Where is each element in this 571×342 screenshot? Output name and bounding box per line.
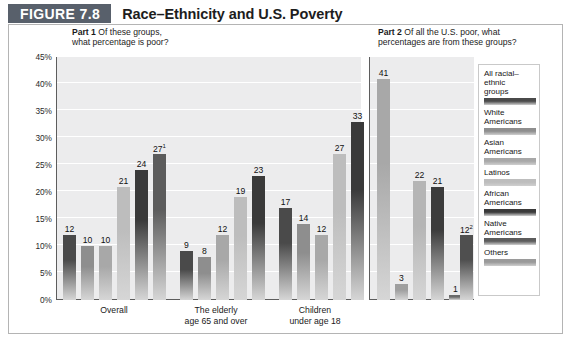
y-axis-tick-label: 45% bbox=[35, 52, 52, 62]
bar-value-label: 9 bbox=[184, 240, 189, 250]
bar bbox=[252, 176, 265, 300]
legend-item-label: Latinos bbox=[484, 168, 535, 177]
legend-item-label: White Americans bbox=[484, 108, 535, 126]
legend-color-swatch bbox=[484, 98, 536, 105]
gridline bbox=[57, 55, 361, 56]
bar-value-label: 23 bbox=[254, 165, 264, 175]
gridline bbox=[57, 109, 361, 110]
part2-heading-line2: percentages are from these groups? bbox=[378, 37, 517, 47]
bar bbox=[81, 246, 94, 300]
bar bbox=[135, 170, 148, 300]
bar bbox=[216, 235, 229, 300]
gridline bbox=[57, 82, 361, 83]
bar bbox=[315, 235, 328, 300]
part1-heading-line1: Of these groups, bbox=[98, 27, 162, 37]
bar bbox=[297, 224, 310, 300]
figure-title-bar: FIGURE 7.8 Race–Ethnicity and U.S. Pover… bbox=[8, 4, 563, 23]
bar-value-label: 8 bbox=[202, 246, 207, 256]
part2-heading-bold: Part 2 bbox=[378, 27, 402, 37]
bar bbox=[333, 154, 346, 300]
y-axis-tick-label: 40% bbox=[35, 79, 52, 89]
legend-color-swatch bbox=[484, 179, 536, 186]
legend-item-label: All racial– ethnic groups bbox=[484, 69, 535, 97]
bar-value-label: 21 bbox=[433, 176, 443, 186]
bar-value-label: 10 bbox=[83, 235, 93, 245]
bar-value-label: 24 bbox=[137, 159, 147, 169]
legend-item-label: African Americans bbox=[484, 189, 535, 207]
bar-value-label: 3 bbox=[399, 273, 404, 283]
legend-item: White Americans bbox=[484, 108, 535, 135]
bar-value-label: 12 bbox=[218, 224, 228, 234]
bar bbox=[413, 181, 426, 300]
legend-item: All racial– ethnic groups bbox=[484, 69, 535, 105]
legend-item: Latinos bbox=[484, 168, 535, 186]
bar-value-label: 27 bbox=[335, 143, 345, 153]
part1-heading: Part 1 Of these groups, what percentage … bbox=[72, 27, 169, 48]
x-axis-group-label: The elderlyage 65 and over bbox=[185, 305, 248, 326]
legend-color-swatch bbox=[484, 238, 536, 245]
y-axis-tick-label: 25% bbox=[35, 160, 52, 170]
legend-item-label: Native Americans bbox=[484, 219, 535, 237]
figure-container: FIGURE 7.8 Race–Ethnicity and U.S. Pover… bbox=[0, 0, 571, 342]
x-axis-group-label: Childrenunder age 18 bbox=[289, 305, 340, 326]
bar bbox=[460, 235, 473, 300]
legend-color-swatch bbox=[484, 128, 536, 135]
bar-value-label: 122 bbox=[460, 224, 473, 235]
legend-item-label: Others bbox=[484, 248, 535, 257]
bar bbox=[180, 251, 193, 300]
bar bbox=[377, 79, 390, 300]
gridline bbox=[57, 190, 361, 191]
gridline bbox=[370, 55, 474, 56]
legend-color-swatch bbox=[484, 259, 536, 266]
bar-value-label: 22 bbox=[415, 170, 425, 180]
bar-value-label: 1 bbox=[453, 284, 458, 294]
legend-item: Native Americans bbox=[484, 219, 535, 246]
bar bbox=[234, 197, 247, 300]
gridline bbox=[57, 136, 361, 137]
legend-color-swatch bbox=[484, 158, 536, 165]
bar bbox=[351, 122, 364, 300]
y-axis-tick-label: 5% bbox=[40, 268, 52, 278]
legend-item: Asian Americans bbox=[484, 138, 535, 165]
bar-value-label: 14 bbox=[299, 213, 309, 223]
bar-value-label: 12 bbox=[317, 224, 327, 234]
y-axis-tick-label: 35% bbox=[35, 106, 52, 116]
part2-heading: Part 2 Of all the U.S. poor, what percen… bbox=[378, 27, 517, 48]
bar-value-label: 271 bbox=[153, 143, 166, 154]
legend-item: African Americans bbox=[484, 189, 535, 216]
part2-heading-line1: Of all the U.S. poor, what bbox=[404, 27, 500, 37]
bar bbox=[198, 257, 211, 300]
bar-value-label: 33 bbox=[353, 111, 363, 121]
bar-value-label: 10 bbox=[101, 235, 111, 245]
bar bbox=[99, 246, 112, 300]
legend-item-label: Asian Americans bbox=[484, 138, 535, 156]
bar-value-label: 12 bbox=[65, 224, 75, 234]
bar-value-label: 41 bbox=[379, 68, 389, 78]
bar-value-label: 21 bbox=[119, 176, 129, 186]
y-axis-tick-label: 0% bbox=[40, 295, 52, 305]
legend: All racial– ethnic groupsWhite Americans… bbox=[478, 64, 540, 296]
gridline bbox=[57, 217, 361, 218]
bar-value-label: 17 bbox=[281, 197, 291, 207]
y-axis-tick-label: 10% bbox=[35, 241, 52, 251]
y-axis-tick-label: 20% bbox=[35, 187, 52, 197]
gridline bbox=[57, 163, 361, 164]
bar bbox=[63, 235, 76, 300]
bar bbox=[279, 208, 292, 300]
y-axis-tick-label: 15% bbox=[35, 214, 52, 224]
bar bbox=[153, 154, 166, 300]
part1-heading-line2: what percentage is poor? bbox=[72, 37, 169, 47]
bar-value-label: 19 bbox=[236, 186, 246, 196]
legend-color-swatch bbox=[484, 209, 536, 216]
bar bbox=[431, 187, 444, 300]
figure-title: Race–Ethnicity and U.S. Poverty bbox=[111, 6, 342, 22]
part1-heading-bold: Part 1 bbox=[72, 27, 96, 37]
y-axis: 0%5%10%15%20%25%30%35%40%45% bbox=[22, 57, 54, 300]
bar bbox=[395, 284, 408, 300]
bar bbox=[117, 187, 130, 300]
figure-number-badge: FIGURE 7.8 bbox=[8, 4, 111, 23]
y-axis-tick-label: 30% bbox=[35, 133, 52, 143]
legend-item: Others bbox=[484, 248, 535, 266]
x-axis-group-label: Overall bbox=[100, 305, 128, 316]
